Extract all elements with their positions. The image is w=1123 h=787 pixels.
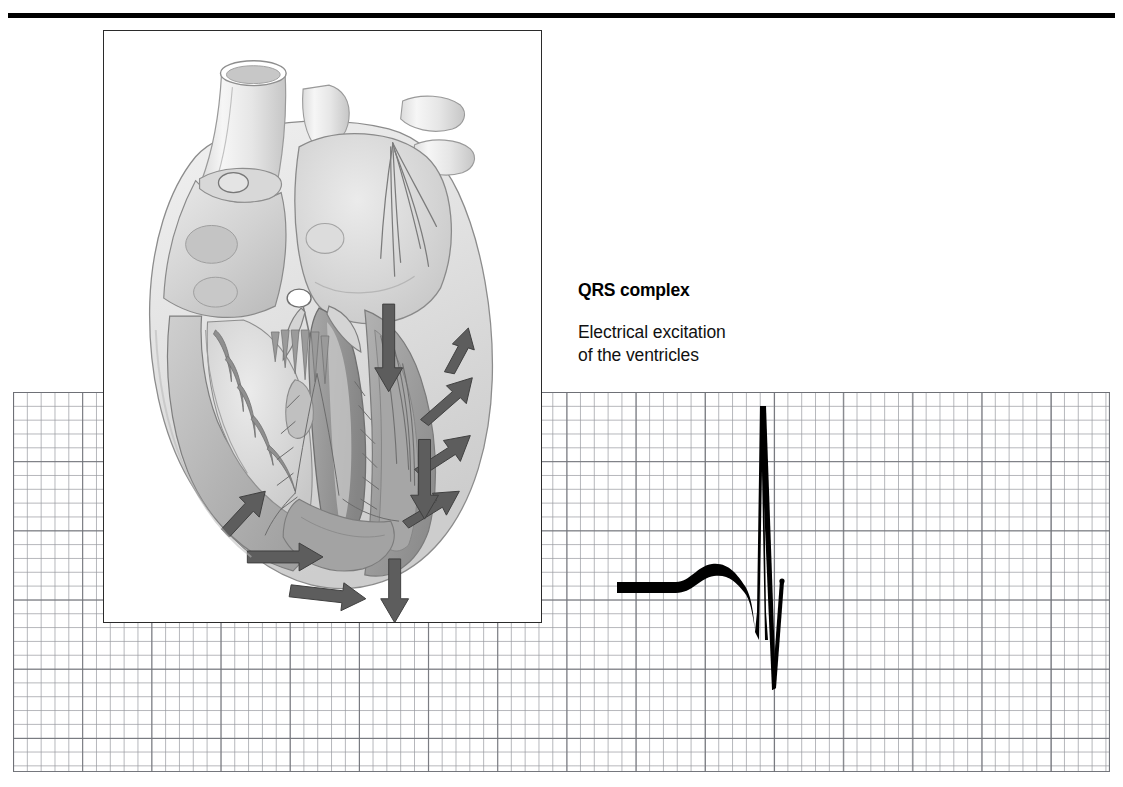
left-atrium-cavity-detail-2	[194, 277, 238, 307]
av-node	[287, 289, 311, 307]
right-atrium	[295, 134, 451, 324]
fossa-ovalis	[306, 223, 344, 253]
heart-illustration-panel	[103, 30, 542, 623]
left-atrium-cavity-detail-1	[186, 225, 238, 263]
caption-line-1: Electrical excitation	[578, 321, 878, 344]
caption-body: Electrical excitation of the ventricles	[578, 321, 878, 367]
caption-line-2: of the ventricles	[578, 344, 878, 367]
aorta-lumen	[226, 66, 280, 84]
top-rule	[8, 13, 1115, 18]
pulmonary-vein-upper	[401, 96, 465, 131]
caption-title: QRS complex	[578, 281, 878, 300]
heart-cross-section-illustration	[104, 31, 541, 622]
sinoatrial-node	[218, 173, 248, 193]
figure-page: QRS complex Electrical excitation of the…	[0, 0, 1123, 787]
caption-block: QRS complex Electrical excitation of the…	[578, 281, 878, 367]
